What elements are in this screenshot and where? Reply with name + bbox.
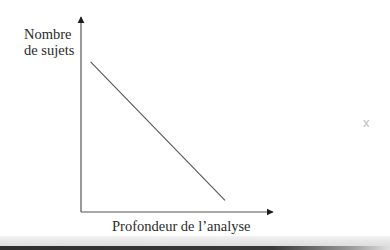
y-axis-label-line2: de sujets <box>24 42 74 58</box>
stray-mark: x <box>363 115 370 130</box>
page-edge-line <box>0 246 390 250</box>
x-axis-label: Profondeur de l’analyse <box>112 218 251 234</box>
y-axis-label-line1: Nombre <box>24 26 74 42</box>
trend-line <box>91 62 225 200</box>
y-axis-label: Nombre de sujets <box>24 26 74 58</box>
